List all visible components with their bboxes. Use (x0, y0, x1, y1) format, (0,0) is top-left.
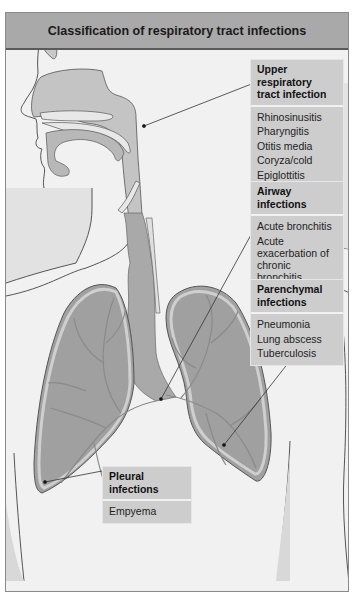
category-title: Pleural infections (103, 467, 191, 501)
infection-item: Acute exacerbation of chronic bronchitis (257, 235, 337, 283)
diagram-title-bar: Classification of respiratory tract infe… (6, 13, 348, 50)
infection-item: Lung abscess (257, 332, 337, 347)
category-box-pleural: Pleural infections Empyema (102, 466, 192, 524)
category-items: Pneumonia Lung abscess Tuberculosis (251, 314, 343, 365)
infection-item: Otitis media (257, 139, 337, 154)
palate (40, 111, 113, 121)
infection-item: Pharyngitis (257, 124, 337, 139)
category-title: Parenchymal infections (251, 280, 343, 314)
lung-right (34, 285, 134, 493)
infection-item: Pneumonia (257, 317, 337, 332)
infection-item: Coryza/cold (257, 153, 337, 168)
infection-item: Rhinosinusitis (257, 110, 337, 125)
category-title: Upper respiratory tract infection (251, 60, 343, 107)
diagram-title: Classification of respiratory tract infe… (48, 24, 306, 38)
category-items: Empyema (103, 501, 191, 523)
category-title: Airway infections (251, 182, 343, 216)
infection-item: Empyema (109, 504, 185, 519)
diagram-frame: Classification of respiratory tract infe… (5, 12, 349, 592)
infection-item: Acute bronchitis (257, 219, 337, 234)
infection-item: Tuberculosis (257, 346, 337, 361)
category-box-parenchymal: Parenchymal infections Pneumonia Lung ab… (250, 279, 344, 366)
infection-item: Epiglottitis (257, 168, 337, 183)
